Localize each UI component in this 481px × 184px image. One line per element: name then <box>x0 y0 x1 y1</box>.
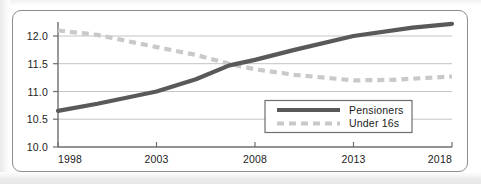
x-axis <box>58 142 452 147</box>
x-tick-labels: 1998 2003 2008 2013 2018 <box>58 153 452 165</box>
series-line-under-16s <box>58 31 452 81</box>
y-tick-label-10-5: 10.5 <box>27 113 48 125</box>
x-tick-label-1998: 1998 <box>58 153 82 165</box>
x-tick-label-2013: 2013 <box>341 153 365 165</box>
y-tick-label-12-0: 12.0 <box>27 30 48 42</box>
chart-legend[interactable]: Pensioners Under 16s <box>265 101 412 133</box>
y-tick-label-11-0: 11.0 <box>28 86 48 98</box>
y-tick-label-10-0: 10.0 <box>27 141 48 153</box>
y-tick-label-11-5: 11.5 <box>28 58 48 70</box>
chart-page: 12.0 11.5 11.0 10.5 10.0 1998 2003 2008 … <box>0 0 481 184</box>
legend-label-under-16s: Under 16s <box>349 117 399 129</box>
x-tick-label-2008: 2008 <box>243 153 267 165</box>
series-line-pensioners <box>58 24 452 111</box>
chart-canvas: 12.0 11.5 11.0 10.5 10.0 1998 2003 2008 … <box>0 0 481 184</box>
x-tick-label-2018: 2018 <box>428 153 452 165</box>
y-axis <box>53 22 58 147</box>
legend-label-pensioners: Pensioners <box>349 104 404 116</box>
y-tick-labels: 12.0 11.5 11.0 10.5 10.0 <box>27 30 48 153</box>
x-tick-label-2003: 2003 <box>144 153 168 165</box>
line-chart: 12.0 11.5 11.0 10.5 10.0 1998 2003 2008 … <box>0 0 481 184</box>
